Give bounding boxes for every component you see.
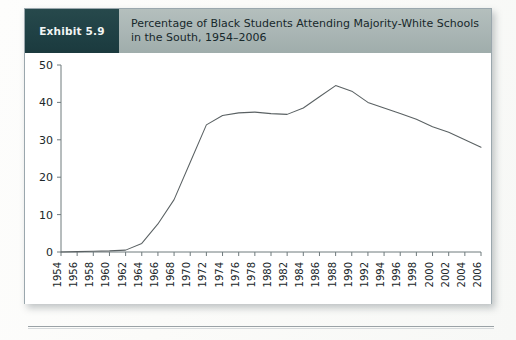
x-tick-label: 1960 bbox=[100, 262, 111, 287]
x-tick-label: 1994 bbox=[375, 262, 386, 287]
x-tick-label: 2000 bbox=[424, 262, 435, 287]
exhibit-number-label: Exhibit 5.9 bbox=[39, 25, 105, 37]
x-tick-label: 1962 bbox=[117, 262, 128, 287]
x-tick-label: 1970 bbox=[181, 262, 192, 287]
x-tick-label: 1964 bbox=[133, 262, 144, 287]
x-tick-label: 1956 bbox=[68, 262, 79, 287]
y-tick-label: 50 bbox=[39, 59, 53, 72]
x-tick-label: 1974 bbox=[214, 262, 225, 287]
exhibit-number-badge: Exhibit 5.9 bbox=[25, 9, 119, 53]
y-tick-label: 20 bbox=[39, 171, 53, 184]
line-chart: 01020304050 1954195619581960196219641966… bbox=[25, 53, 491, 304]
figure-header: Exhibit 5.9 Percentage of Black Students… bbox=[25, 9, 491, 53]
x-tick-label: 1982 bbox=[278, 262, 289, 287]
series-line bbox=[61, 86, 481, 252]
figure-title-line-1: Percentage of Black Students Attending M… bbox=[131, 17, 479, 30]
figure-title-line-2: in the South, 1954–2006 bbox=[131, 31, 267, 44]
x-tick-label: 1958 bbox=[84, 262, 95, 287]
y-tick-label: 40 bbox=[39, 96, 53, 109]
x-tick-label: 2004 bbox=[456, 262, 467, 287]
figure-title: Percentage of Black Students Attending M… bbox=[119, 9, 491, 53]
x-tick-label: 1998 bbox=[407, 262, 418, 287]
exhibit-figure-card: Exhibit 5.9 Percentage of Black Students… bbox=[24, 8, 492, 304]
x-tick-label: 1966 bbox=[149, 262, 160, 287]
x-tick-label: 1954 bbox=[52, 262, 63, 287]
x-tick-label: 1990 bbox=[343, 262, 354, 287]
y-tick-label: 0 bbox=[46, 246, 53, 259]
data-series-group bbox=[61, 86, 481, 252]
x-tick-label: 1988 bbox=[327, 262, 338, 287]
y-axis: 01020304050 bbox=[39, 59, 61, 259]
figure-title-text: Percentage of Black Students Attending M… bbox=[131, 17, 479, 46]
x-tick-label: 1980 bbox=[262, 262, 273, 287]
y-tick-label: 10 bbox=[39, 209, 53, 222]
x-tick-label: 2002 bbox=[440, 262, 451, 287]
x-tick-label: 1996 bbox=[391, 262, 402, 287]
x-axis: 1954195619581960196219641966196819701972… bbox=[52, 252, 483, 287]
y-tick-label: 30 bbox=[39, 134, 53, 147]
x-tick-label: 1976 bbox=[230, 262, 241, 287]
chart-plot-area: 01020304050 1954195619581960196219641966… bbox=[25, 53, 491, 304]
x-tick-label: 2006 bbox=[472, 262, 483, 287]
page-horizontal-rule bbox=[28, 326, 494, 327]
x-tick-label: 1968 bbox=[165, 262, 176, 287]
x-tick-label: 1992 bbox=[359, 262, 370, 287]
x-tick-label: 1972 bbox=[197, 262, 208, 287]
x-tick-label: 1986 bbox=[310, 262, 321, 287]
x-tick-label: 1984 bbox=[294, 262, 305, 287]
x-tick-label: 1978 bbox=[246, 262, 257, 287]
